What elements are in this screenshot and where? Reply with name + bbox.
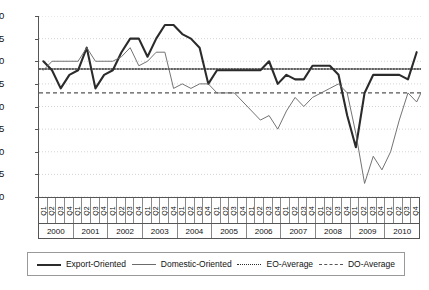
y-axis-tick-label: 60 <box>0 147 4 157</box>
quarter-tick-label: Q4 <box>273 206 280 215</box>
quarter-tick-cell: Q3 <box>126 198 135 223</box>
quarter-tick-cell: Q4 <box>238 198 247 223</box>
quarter-tick-label: Q4 <box>135 206 142 215</box>
legend-item-do-average: DO-Average <box>319 259 395 269</box>
quarter-tick-label: Q1 <box>74 206 81 215</box>
quarter-tick-cell: Q2 <box>359 198 368 223</box>
legend-item-domestic-oriented: Domestic-Oriented <box>132 259 232 269</box>
quarter-tick-label: Q2 <box>290 206 297 215</box>
quarter-tick-cell: Q4 <box>377 198 386 223</box>
quarter-tick-cell: Q4 <box>134 198 143 223</box>
quarter-tick-label: Q1 <box>143 206 150 215</box>
quarter-tick-cell: Q2 <box>82 198 91 223</box>
quarter-tick-cell: Q4 <box>203 198 212 223</box>
quarter-tick-cell: Q3 <box>91 198 100 223</box>
quarter-tick-cell: Q2 <box>152 198 161 223</box>
quarter-tick-label: Q3 <box>57 206 64 215</box>
quarter-tick-cell: Q2 <box>48 198 57 223</box>
y-axis-tick-label: 55 <box>0 169 4 179</box>
y-axis-tick-label: 85 <box>0 34 4 44</box>
quarter-tick-cell: Q3 <box>56 198 65 223</box>
year-tick-label: 2005 <box>212 224 247 238</box>
year-label-row: 2000200120022003200420052006200720082009… <box>38 223 420 239</box>
quarter-tick-cell: Q4 <box>273 198 282 223</box>
quarter-tick-cell: Q3 <box>195 198 204 223</box>
quarter-tick-cell: Q2 <box>255 198 264 223</box>
quarter-tick-label: Q1 <box>247 206 254 215</box>
quarter-tick-label: Q2 <box>325 206 332 215</box>
solid-thin-line-icon <box>132 260 156 268</box>
quarter-tick-label: Q2 <box>221 206 228 215</box>
quarter-tick-label: Q1 <box>282 206 289 215</box>
legend-item-label: Domestic-Oriented <box>161 259 232 269</box>
legend-item-export-oriented: Export-Oriented <box>37 259 126 269</box>
legend-item-label: Export-Oriented <box>66 259 126 269</box>
quarter-tick-label: Q1 <box>178 206 185 215</box>
quarter-tick-cell: Q4 <box>342 198 351 223</box>
quarter-tick-label: Q4 <box>100 206 107 215</box>
y-axis-tick-label: 75 <box>0 79 4 89</box>
year-tick-label: 2001 <box>74 224 109 238</box>
quarter-tick-label: Q2 <box>394 206 401 215</box>
quarter-tick-cell: Q1 <box>316 198 325 223</box>
quarter-tick-label: Q3 <box>334 206 341 215</box>
quarter-tick-cell: Q2 <box>325 198 334 223</box>
quarter-tick-label: Q2 <box>360 206 367 215</box>
year-tick-label: 2000 <box>39 224 74 238</box>
quarter-tick-label: Q3 <box>195 206 202 215</box>
quarter-tick-label: Q1 <box>386 206 393 215</box>
quarter-tick-cell: Q1 <box>143 198 152 223</box>
quarter-tick-label: Q1 <box>39 206 46 215</box>
legend-item-label: DO-Average <box>348 259 395 269</box>
quarter-tick-label: Q4 <box>169 206 176 215</box>
quarter-tick-cell: Q2 <box>186 198 195 223</box>
year-tick-label: 2002 <box>108 224 143 238</box>
quarter-tick-cell: Q4 <box>169 198 178 223</box>
y-axis-tick-label: 90 <box>0 11 4 21</box>
quarter-tick-cell: Q3 <box>229 198 238 223</box>
year-tick-label: 2007 <box>281 224 316 238</box>
quarter-tick-cell: Q2 <box>394 198 403 223</box>
y-axis-tick-label: 70 <box>0 102 4 112</box>
quarter-tick-cell: Q2 <box>117 198 126 223</box>
quarter-tick-cell: Q1 <box>39 198 48 223</box>
quarter-tick-label: Q4 <box>308 206 315 215</box>
quarter-tick-label: Q2 <box>48 206 55 215</box>
quarter-tick-label: Q1 <box>351 206 358 215</box>
quarter-tick-cell: Q4 <box>100 198 109 223</box>
x-axis: Q1Q2Q3Q4Q1Q2Q3Q4Q1Q2Q3Q4Q1Q2Q3Q4Q1Q2Q3Q4… <box>38 197 420 239</box>
quarter-tick-label: Q3 <box>91 206 98 215</box>
y-axis-tick-label: 80 <box>0 56 4 66</box>
quarter-tick-label: Q3 <box>368 206 375 215</box>
quarter-tick-cell: Q4 <box>411 198 419 223</box>
quarter-tick-cell: Q3 <box>403 198 412 223</box>
line-chart: 908580757065605550 Q1Q2Q3Q4Q1Q2Q3Q4Q1Q2Q… <box>0 0 429 290</box>
quarter-tick-label: Q4 <box>65 206 72 215</box>
quarter-tick-cell: Q2 <box>290 198 299 223</box>
quarter-label-row: Q1Q2Q3Q4Q1Q2Q3Q4Q1Q2Q3Q4Q1Q2Q3Q4Q1Q2Q3Q4… <box>38 197 420 223</box>
quarter-tick-cell: Q3 <box>160 198 169 223</box>
quarter-tick-label: Q3 <box>230 206 237 215</box>
quarter-tick-label: Q3 <box>126 206 133 215</box>
year-tick-label: 2009 <box>351 224 386 238</box>
quarter-tick-label: Q4 <box>412 206 419 215</box>
year-tick-label: 2010 <box>385 224 419 238</box>
quarter-tick-label: Q2 <box>186 206 193 215</box>
quarter-tick-label: Q2 <box>117 206 124 215</box>
quarter-tick-cell: Q1 <box>247 198 256 223</box>
quarter-tick-cell: Q1 <box>351 198 360 223</box>
dashed-line-icon <box>319 260 343 268</box>
year-tick-label: 2006 <box>247 224 282 238</box>
year-tick-label: 2004 <box>178 224 213 238</box>
quarter-tick-cell: Q4 <box>307 198 316 223</box>
quarter-tick-cell: Q1 <box>281 198 290 223</box>
y-axis-tick-label: 50 <box>0 192 4 202</box>
quarter-tick-cell: Q1 <box>178 198 187 223</box>
quarter-tick-label: Q2 <box>152 206 159 215</box>
quarter-tick-label: Q3 <box>161 206 168 215</box>
quarter-tick-cell: Q4 <box>65 198 74 223</box>
plot-svg <box>39 16 421 197</box>
quarter-tick-label: Q4 <box>377 206 384 215</box>
quarter-tick-label: Q3 <box>264 206 271 215</box>
year-tick-label: 2003 <box>143 224 178 238</box>
